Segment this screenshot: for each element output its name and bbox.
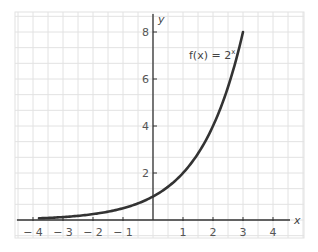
x-tick-label: 2 [210, 226, 217, 239]
exponential-function-chart: − 4− 3− 2− 112342468 x y f(x) = 2x [0, 0, 318, 252]
y-tick-label: 6 [142, 73, 149, 86]
function-label-base: f(x) = 2 [189, 49, 231, 62]
y-tick-label: 8 [142, 26, 149, 39]
x-tick-label: 1 [180, 226, 187, 239]
y-tick-label: 2 [142, 167, 149, 180]
x-tick-label: − 2 [83, 226, 103, 239]
x-axis-label: x [293, 214, 301, 227]
x-tick-label: − 3 [53, 226, 73, 239]
x-tick-label: 4 [270, 226, 277, 239]
y-axis-label: y [157, 13, 165, 26]
x-tick-label: − 1 [113, 226, 133, 239]
y-tick-label: 4 [142, 120, 149, 133]
axis-ticks: − 4− 3− 2− 112342468 [23, 26, 276, 239]
x-tick-label: − 4 [23, 226, 43, 239]
function-label: f(x) = 2x [189, 48, 235, 62]
function-label-exponent: x [231, 48, 235, 56]
grid-lines [15, 12, 304, 238]
x-tick-label: 3 [240, 226, 247, 239]
